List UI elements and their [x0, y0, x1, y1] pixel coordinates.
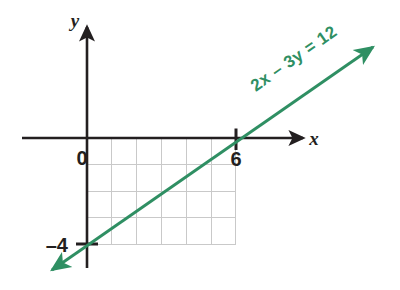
x-tick-label-6: 6 — [230, 148, 241, 170]
origin-label: 0 — [76, 147, 87, 169]
y-tick-label-minus4: –4 — [46, 234, 69, 256]
equation-line — [52, 47, 373, 270]
grid — [87, 138, 236, 244]
coordinate-plane-figure: y x 0 6 –4 2x – 3y = 12 — [0, 0, 400, 290]
figure-canvas: y x 0 6 –4 2x – 3y = 12 — [0, 0, 400, 290]
y-axis-label: y — [69, 10, 80, 31]
equation-label: 2x – 3y = 12 — [247, 22, 341, 96]
x-axis-label: x — [308, 128, 319, 149]
